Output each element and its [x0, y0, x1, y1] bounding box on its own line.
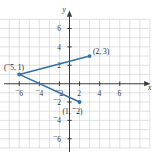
coordinate-plane-figure: –6 –4 –2 2 4 6 6 4 2 –2 –4 –6: [0, 0, 157, 159]
x-tick-label-neg6: –6: [15, 84, 24, 98]
y-tick-label-neg6: –6: [53, 130, 62, 144]
y-axis-arrowhead: [67, 11, 72, 17]
y-tick-label-2: 2: [57, 61, 61, 70]
point-marker-neg5-1: [17, 73, 21, 77]
point-label-2-3: (2, 3): [93, 47, 110, 56]
x-tick-label-neg4: –4: [35, 84, 44, 98]
point-label-1-neg2: (1, –2): [63, 103, 84, 117]
point-marker-1-neg2: [78, 100, 82, 104]
x-tick-label-4: 4: [97, 89, 101, 98]
point-label-neg5-1: (–5, 1): [4, 59, 25, 73]
x-tick-label-2: 2: [77, 89, 81, 98]
graph-canvas: –6 –4 –2 2 4 6 6 4 2 –2 –4 –6: [0, 0, 157, 159]
axis-lines: [4, 15, 146, 152]
point-marker-2-3: [88, 54, 92, 58]
x-tick-labels: –6 –4 –2 2 4 6: [15, 84, 122, 98]
x-axis-label: x: [147, 83, 152, 92]
y-tick-label-neg4: –4: [53, 112, 62, 126]
y-axis-label: y: [61, 5, 66, 14]
x-tick-label-6: 6: [118, 89, 122, 98]
y-tick-label-4: 4: [57, 43, 61, 52]
y-tick-label-6: 6: [57, 24, 61, 33]
